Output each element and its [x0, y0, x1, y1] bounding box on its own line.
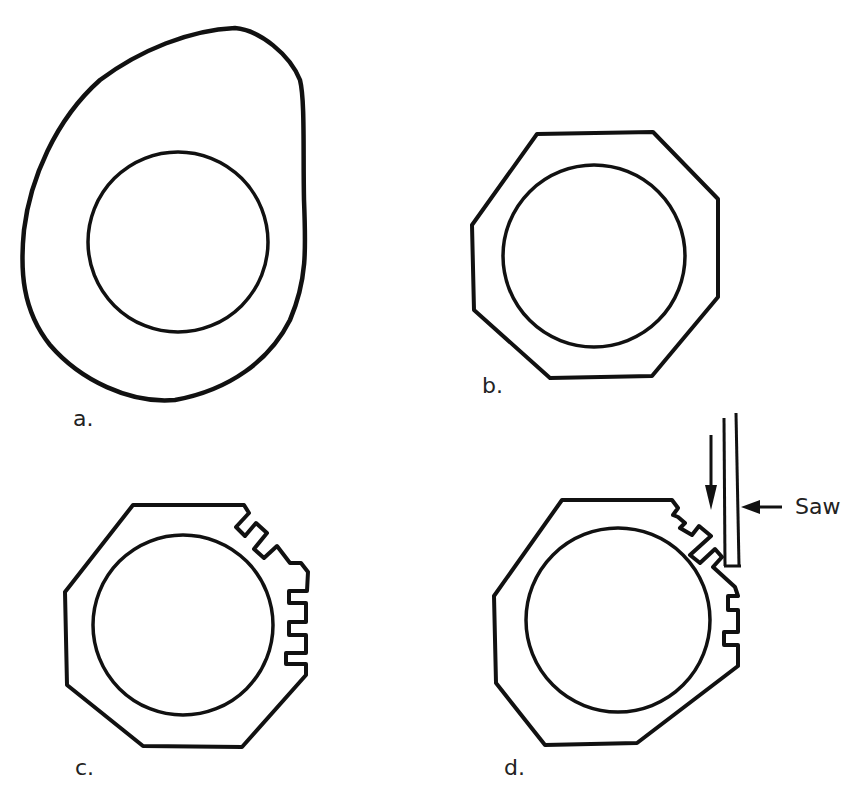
saw-blade — [724, 413, 741, 566]
diagram-svg — [0, 0, 868, 786]
panel-c-label: c. — [75, 757, 94, 779]
figure-canvas: a. b. c. d. Saw — [0, 0, 868, 786]
panel-d-shape — [494, 500, 738, 745]
panel-a-label: a. — [73, 408, 93, 430]
panel-c-bore-circle — [93, 535, 273, 715]
saw-pointer-head-icon — [741, 500, 760, 514]
panel-b-shape — [472, 132, 718, 378]
panel-d-label: d. — [504, 757, 525, 779]
feed-arrow-head-icon — [705, 485, 717, 510]
saw-blade-right-edge — [736, 413, 739, 566]
panel-b-octagon-outline — [472, 132, 718, 378]
panel-d-bore-circle — [526, 528, 710, 712]
saw-label: Saw — [795, 496, 840, 518]
panel-a-shape — [22, 28, 305, 400]
feed-direction-arrow — [705, 435, 717, 510]
panel-b-label: b. — [482, 375, 503, 397]
saw-pointer-arrow — [741, 500, 782, 514]
panel-a-bore-circle — [88, 152, 268, 332]
panel-d-notched-outline — [494, 500, 738, 745]
saw-blade-left-edge — [724, 418, 725, 566]
panel-b-bore-circle — [503, 165, 685, 347]
panel-c-shape — [65, 505, 308, 747]
